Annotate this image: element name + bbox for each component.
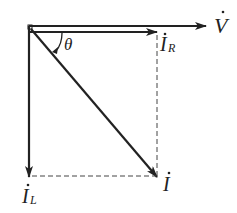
svg-text:I: I [159, 33, 168, 55]
phasor-diagram: θ V I R I I L [0, 0, 237, 213]
theta-arrowhead [52, 47, 58, 54]
svg-text:L: L [29, 193, 37, 207]
svg-text:I: I [162, 173, 171, 195]
label-v: V [214, 11, 230, 38]
label-theta: θ [64, 35, 72, 54]
svg-text:I: I [21, 185, 30, 207]
dot-il [27, 184, 30, 187]
dot-v [222, 11, 225, 14]
label-ir: I R [159, 33, 176, 55]
dot-ir [164, 33, 167, 36]
label-i: I [162, 172, 171, 195]
dot-i [168, 172, 171, 175]
svg-text:R: R [167, 41, 176, 55]
vector-i [31, 29, 157, 177]
label-il: I L [21, 184, 37, 207]
svg-text:V: V [214, 13, 230, 38]
